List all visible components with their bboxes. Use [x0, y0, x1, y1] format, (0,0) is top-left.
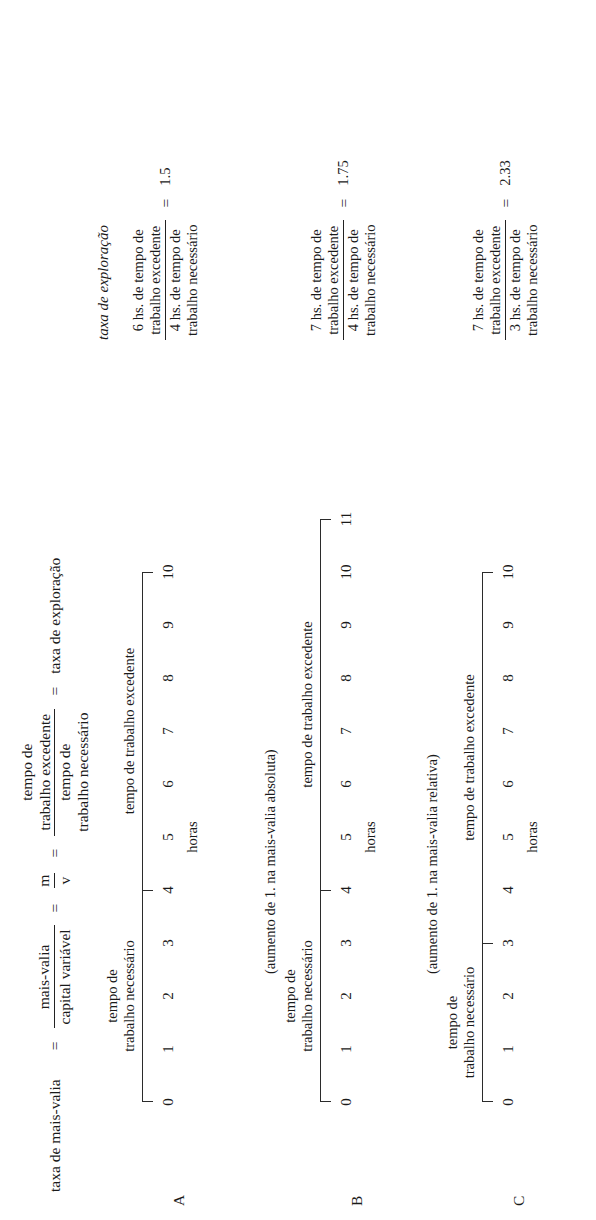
axis-tick-1: 1	[160, 1045, 177, 1053]
bracket-tempo-excedente	[482, 572, 493, 943]
axis-tick-0: 0	[160, 1098, 177, 1106]
axis-tick-2: 2	[160, 992, 177, 1000]
denominator-line-2: trabalho necessário	[524, 224, 541, 336]
bracket-tempo-necessario	[320, 890, 331, 1102]
denominator-line-1: 3 hs. de tempo de	[507, 224, 524, 336]
axis-tick-9: 9	[338, 621, 355, 629]
axis-tick-2: 2	[338, 992, 355, 1000]
axis-tick-3: 3	[500, 939, 517, 947]
axis-tick-8: 8	[338, 674, 355, 682]
axis-tick-1: 1	[338, 1045, 355, 1053]
denominator-line-2: trabalho necessário	[74, 713, 92, 832]
label-line-1: tempo de	[282, 940, 299, 1052]
equals-4: =	[46, 687, 64, 696]
label-tempo-trabalho-necessario: tempo detrabalho necessário	[104, 940, 138, 1052]
bracket-tempo-excedente	[142, 572, 153, 890]
fraction-numerator: 7 hs. de tempo detrabalho excedente	[308, 222, 343, 339]
label-line-2: trabalho necessário	[121, 940, 138, 1052]
fraction-tempo: tempo de trabalho excedente tempo de tra…	[18, 709, 92, 836]
fraction-m-v: m v	[35, 871, 75, 891]
label-line-1: tempo de	[444, 967, 461, 1079]
axis-tick-3: 3	[160, 939, 177, 947]
axis-tick-5: 5	[160, 833, 177, 841]
numerator-line-2: trabalho excedente	[325, 226, 342, 335]
master-formula-result: taxa de exploração	[46, 558, 64, 674]
label-line-2: trabalho necessário	[299, 940, 316, 1052]
numerator-line-2: trabalho excedente	[487, 226, 504, 335]
fraction-denominator: 4 hs. de tempo detrabalho necessário	[165, 220, 201, 340]
master-formula-label: taxa de mais-valia	[46, 1079, 64, 1192]
axis-tick-10: 10	[160, 565, 177, 580]
fraction-denominator: capital variável	[54, 925, 74, 1028]
axis-tick-9: 9	[160, 621, 177, 629]
fraction: 6 hs. de tempo detrabalho excedente4 hs.…	[130, 220, 201, 340]
fraction-denominator: v	[54, 873, 74, 889]
axis-tick-1: 1	[500, 1045, 517, 1053]
axis-tick-10: 10	[338, 565, 355, 580]
axis-tick-4: 4	[160, 886, 177, 894]
equals-3: =	[46, 849, 64, 858]
label-line-2: trabalho necessário	[461, 967, 478, 1079]
numerator-line-2: trabalho excedente	[147, 226, 164, 335]
denominator-line-1: tempo de	[56, 744, 74, 801]
rate-value: 1.5	[157, 168, 174, 186]
fraction: 7 hs. de tempo detrabalho excedente3 hs.…	[470, 220, 541, 340]
denominator-line-2: trabalho necessário	[362, 224, 379, 336]
numerator-line-1: 7 hs. de tempo de	[470, 226, 487, 335]
rate-formula-c: 7 hs. de tempo detrabalho excedente3 hs.…	[470, 160, 541, 340]
fraction-denominator: 4 hs. de tempo detrabalho necessário	[343, 220, 379, 340]
axis-tick-6: 6	[500, 780, 517, 788]
equals-sign: =	[335, 199, 353, 208]
column-header-taxa-exploracao: taxa de exploração	[95, 225, 112, 340]
axis-tick-3: 3	[338, 939, 355, 947]
bracket-tempo-necessario	[142, 890, 153, 1102]
row-label-b: B	[348, 1196, 366, 1206]
axis-label-horas: horas	[362, 821, 379, 852]
equals-sign: =	[497, 199, 515, 208]
fraction-numerator: tempo de trabalho excedente	[18, 710, 54, 835]
axis-tick-0: 0	[338, 1098, 355, 1106]
rate-formula-b: 7 hs. de tempo detrabalho excedente4 hs.…	[308, 160, 379, 340]
axis-tick-8: 8	[160, 674, 177, 682]
fraction-numerator: m	[35, 871, 54, 891]
fraction: 7 hs. de tempo detrabalho excedente4 hs.…	[308, 220, 379, 340]
rate-value: 1.75	[335, 160, 352, 185]
label-tempo-trabalho-necessario: tempo detrabalho necessário	[282, 940, 316, 1052]
figure-page: taxa de mais-valia = mais-valia capital …	[0, 0, 596, 1220]
bracket-tempo-necessario	[482, 943, 493, 1102]
scale-row-a: Atempo detrabalho necessáriotempo de tra…	[112, 0, 262, 1220]
denominator-line-1: 4 hs. de tempo de	[345, 224, 362, 336]
axis-tick-5: 5	[500, 833, 517, 841]
label-line-1: tempo de	[104, 940, 121, 1052]
fraction-mais-valia: mais-valia capital variável	[35, 925, 75, 1028]
axis-tick-4: 4	[338, 886, 355, 894]
bracket-tempo-excedente	[320, 519, 331, 890]
label-tempo-trabalho-excedente: tempo de trabalho excedente	[461, 674, 478, 840]
denominator-line-2: trabalho necessário	[184, 224, 201, 336]
numerator-line-1: tempo de	[18, 744, 36, 801]
caption-relativa: (aumento de 1. na mais-valia relativa)	[424, 754, 441, 974]
axis-tick-8: 8	[500, 674, 517, 682]
fraction-denominator: tempo de trabalho necessário	[54, 709, 91, 836]
label-tempo-trabalho-necessario: tempo detrabalho necessário	[444, 967, 478, 1079]
row-label-c: C	[510, 1196, 528, 1206]
axis-label-horas: horas	[524, 821, 541, 852]
fraction-numerator: mais-valia	[35, 941, 54, 1014]
equals-2: =	[46, 904, 64, 913]
axis-tick-7: 7	[338, 727, 355, 735]
scale-row-c: Ctempo detrabalho necessáriotempo de tra…	[452, 0, 596, 1220]
axis-tick-11: 11	[338, 512, 355, 526]
axis-tick-7: 7	[160, 727, 177, 735]
axis-tick-0: 0	[500, 1098, 517, 1106]
equals-sign: =	[157, 199, 175, 208]
equals-1: =	[46, 1041, 64, 1050]
axis-tick-6: 6	[160, 780, 177, 788]
numerator-line-1: 6 hs. de tempo de	[130, 226, 147, 335]
caption-absoluta: (aumento de 1. na mais-valia absoluta)	[262, 749, 279, 974]
numerator-line-1: 7 hs. de tempo de	[308, 226, 325, 335]
axis-label-horas: horas	[184, 821, 201, 852]
axis-tick-10: 10	[500, 565, 517, 580]
fraction-denominator: 3 hs. de tempo detrabalho necessário	[505, 220, 541, 340]
denominator-line-1: 4 hs. de tempo de	[167, 224, 184, 336]
label-tempo-trabalho-excedente: tempo de trabalho excedente	[299, 621, 316, 787]
